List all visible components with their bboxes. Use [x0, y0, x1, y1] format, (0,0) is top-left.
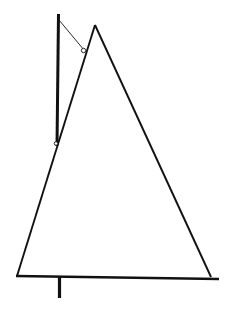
figure-canvas: [0, 0, 232, 313]
halyard-ring-marker: [81, 48, 85, 52]
canvas-background: [0, 0, 232, 313]
mast-foot-marker: [54, 142, 58, 146]
vertical-mast: [57, 14, 59, 146]
